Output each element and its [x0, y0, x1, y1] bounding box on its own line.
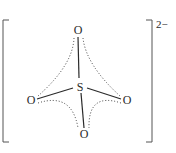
atom-s-center: S	[77, 80, 84, 94]
atom-o-left: O	[27, 93, 36, 107]
atom-o-bottom: O	[80, 127, 89, 141]
bond-bottom	[81, 93, 84, 128]
atom-o-top: O	[74, 23, 83, 37]
right-bracket	[146, 20, 152, 142]
left-bracket	[3, 20, 9, 142]
deloc-top-left	[38, 38, 74, 96]
deloc-left-bottom	[38, 100, 78, 128]
bond-left	[37, 88, 73, 99]
deloc-top-right	[83, 38, 120, 96]
atom-o-right: O	[123, 93, 132, 107]
ion-charge: 2−	[156, 18, 168, 30]
sulfate-ion-diagram: O S O O O 2−	[0, 0, 176, 153]
bond-top	[78, 37, 79, 78]
bond-right	[87, 88, 121, 99]
deloc-right-bottom	[89, 100, 121, 128]
